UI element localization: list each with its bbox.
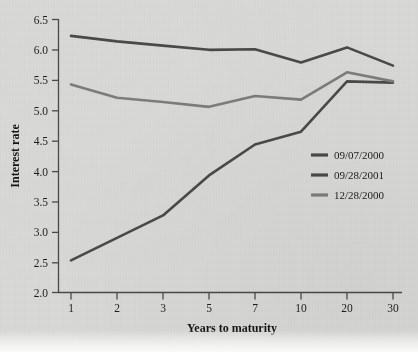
x-axis-ticks [71,293,393,300]
y-tick-label: 4.5 [34,135,49,147]
x-tick-label: 10 [295,302,307,314]
legend-label: 09/07/2000 [334,149,385,161]
x-tick-label: 20 [341,302,353,314]
y-axis-ticks [52,20,59,293]
yield-curve-chart: 6.5 6.0 5.5 5.0 4.5 4.0 3.5 3.0 2.5 2.0 … [0,0,418,352]
legend-label: 12/28/2000 [334,189,385,201]
legend-label: 09/28/2001 [334,169,384,181]
x-tick-label: 1 [68,302,74,314]
y-tick-label: 4.0 [34,166,49,178]
y-tick-label: 3.5 [34,196,49,208]
y-tick-label: 5.0 [34,105,49,117]
y-axis-tick-labels: 6.5 6.0 5.5 5.0 4.5 4.0 3.5 3.0 2.5 2.0 [34,14,49,299]
x-tick-label: 30 [387,302,399,314]
series-line [71,72,393,107]
y-tick-label: 5.5 [34,74,49,86]
y-tick-label: 2.0 [34,287,49,299]
x-tick-label: 5 [206,302,212,314]
x-tick-label: 2 [114,302,120,314]
series-line [71,36,393,66]
y-tick-label: 6.5 [34,14,49,26]
figure-container: 6.5 6.0 5.5 5.0 4.5 4.0 3.5 3.0 2.5 2.0 … [0,0,418,352]
legend: 09/07/2000 09/28/2001 12/28/2000 [311,149,385,201]
x-axis-title: Years to maturity [187,321,277,335]
y-tick-label: 3.0 [34,226,49,238]
x-tick-label: 3 [160,302,166,314]
y-tick-label: 2.5 [34,257,49,269]
x-tick-label: 7 [252,302,258,314]
y-axis-title: Interest rate [8,124,22,188]
y-tick-label: 6.0 [34,44,49,56]
x-axis-tick-labels: 1 2 3 5 7 10 20 30 [68,302,399,314]
